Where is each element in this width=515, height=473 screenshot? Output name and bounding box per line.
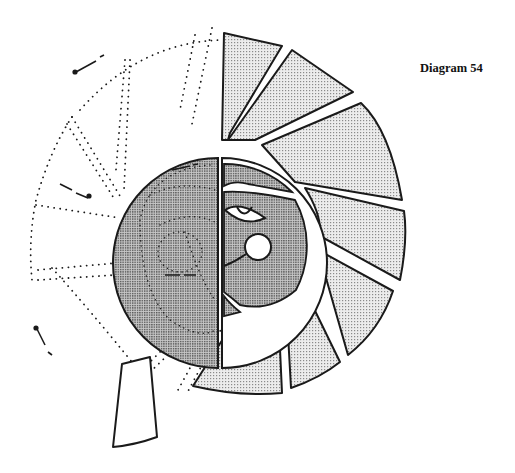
diagram-caption: Diagram 54	[420, 61, 483, 76]
white-block	[113, 357, 157, 447]
round-opening	[245, 234, 271, 260]
core-left-half	[113, 158, 218, 368]
